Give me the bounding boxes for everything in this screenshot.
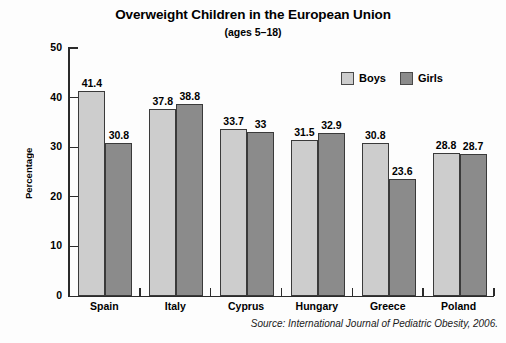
bar-spain-girls: [105, 143, 132, 296]
bar-value-greece-girls: 23.6: [381, 165, 423, 177]
source-note: Source: International Journal of Pediatr…: [251, 318, 498, 329]
bar-value-spain-boys: 41.4: [71, 77, 113, 89]
bar-value-greece-boys: 30.8: [354, 129, 396, 141]
y-tick-label-10: 10: [22, 239, 62, 251]
bar-italy-boys: [149, 109, 176, 296]
y-tick-label-30: 30: [22, 140, 62, 152]
bar-value-italy-girls: 38.8: [169, 90, 211, 102]
bar-hungary-girls: [318, 133, 345, 296]
y-tick-label-20: 20: [22, 190, 62, 202]
legend-label-boys: Boys: [359, 72, 386, 84]
bar-italy-girls: [176, 104, 203, 296]
bar-spain-boys: [78, 91, 105, 296]
bar-cyprus-girls: [247, 132, 274, 296]
bar-value-spain-girls: 30.8: [98, 129, 140, 141]
legend-entry-boys: Boys: [341, 72, 386, 85]
bar-chart-figure: Overweight Children in the European Unio…: [0, 0, 506, 343]
bar-poland-boys: [433, 153, 460, 296]
bar-value-cyprus-girls: 33: [240, 118, 282, 130]
chart-subtitle: (ages 5–18): [0, 26, 506, 38]
bar-value-poland-girls: 28.7: [452, 140, 494, 152]
y-axis-title: Percentage: [22, 118, 36, 228]
bar-poland-girls: [460, 154, 487, 296]
legend-entry-girls: Girls: [400, 72, 443, 85]
y-tick-label-40: 40: [22, 91, 62, 103]
category-label-poland: Poland: [414, 300, 504, 312]
chart-legend: Boys Girls: [341, 68, 443, 88]
bar-value-hungary-girls: 32.9: [310, 119, 352, 131]
bar-hungary-boys: [291, 140, 318, 296]
chart-title: Overweight Children in the European Unio…: [0, 7, 506, 22]
y-tick-label-0: 0: [22, 289, 62, 301]
legend-swatch-boys-icon: [341, 72, 354, 85]
bar-greece-girls: [389, 179, 416, 296]
bar-cyprus-boys: [220, 129, 247, 296]
y-tick-label-50: 50: [22, 41, 62, 53]
legend-label-girls: Girls: [418, 72, 443, 84]
legend-swatch-girls-icon: [400, 72, 413, 85]
